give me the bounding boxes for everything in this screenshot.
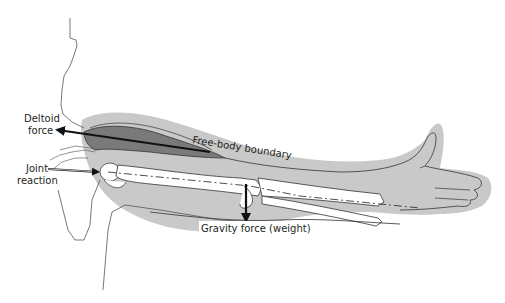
joint-label-line2: reaction: [17, 175, 58, 186]
neck-outline: [61, 18, 84, 128]
joint-label-line1: Joint: [25, 163, 48, 174]
torso-outline: [58, 180, 100, 240]
deltoid-label-line2: force: [28, 125, 53, 136]
deltoid-label-line1: Deltoid: [24, 113, 60, 124]
gravity-force-label: Gravity force (weight): [201, 223, 311, 234]
free-body-diagram: Deltoid force Joint reaction Free-body b…: [0, 0, 505, 303]
